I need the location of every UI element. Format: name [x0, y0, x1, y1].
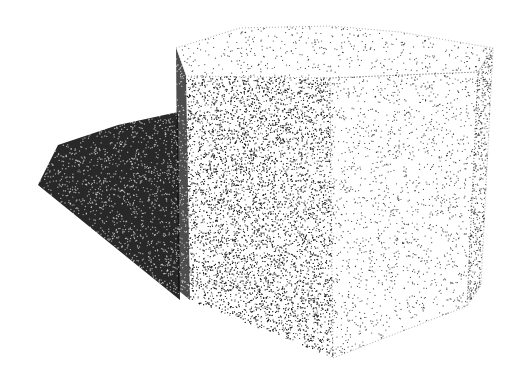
prism-right-edge-face	[467, 48, 493, 306]
stippled-prism-image	[0, 0, 517, 377]
prism-left-dark-face	[176, 48, 191, 300]
prism-front-left-face	[186, 76, 334, 358]
prism-top-face	[176, 26, 493, 78]
prism-illustration	[0, 0, 517, 377]
shadow-region	[38, 112, 180, 300]
prism-front-right-face	[329, 72, 478, 358]
